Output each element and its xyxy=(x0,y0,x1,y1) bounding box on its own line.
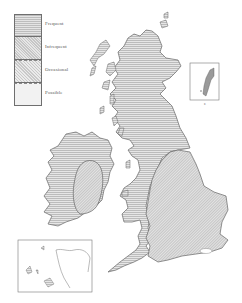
legend-item-infrequent: Infrequent xyxy=(14,37,80,60)
orkney xyxy=(160,12,168,28)
legend-item-possible: Possible xyxy=(14,83,80,106)
ireland xyxy=(44,132,114,226)
legend-item-occasional: Occasional xyxy=(14,60,80,83)
region-infrequent-england xyxy=(146,150,228,262)
occasional-swatch xyxy=(14,60,42,83)
infrequent-swatch xyxy=(14,37,42,60)
frequent-swatch xyxy=(14,14,42,37)
isle-of-man xyxy=(126,160,130,168)
legend-item-frequent: Frequent xyxy=(14,14,80,37)
shetland-inset: ᴇ xyxy=(190,63,219,106)
shetland-label: ᴇ xyxy=(204,101,206,106)
legend-label: Frequent xyxy=(45,21,64,26)
map-legend: Frequent Infrequent Occasional Possible xyxy=(14,14,80,106)
channel-islands-inset xyxy=(18,240,92,292)
legend-label: Occasional xyxy=(45,67,68,72)
legend-label: Possible xyxy=(45,90,62,95)
legend-label: Infrequent xyxy=(45,44,67,49)
possible-swatch xyxy=(14,83,42,106)
